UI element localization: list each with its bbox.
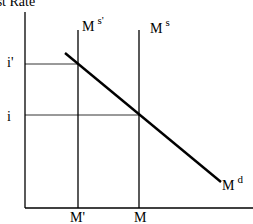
money-supply-new-label: Ms' — [82, 20, 104, 34]
money-supply-label: Ms — [150, 22, 170, 36]
money-supply-sup: s — [165, 16, 169, 28]
money-demand-base: M — [222, 178, 234, 193]
money-supply-base: M — [150, 21, 162, 36]
money-demand-line — [65, 53, 221, 182]
money-demand-sup: d — [237, 173, 243, 185]
x-tick-m: M — [134, 211, 146, 224]
y-tick-i: i — [7, 110, 11, 124]
money-demand-label: Md — [222, 179, 243, 193]
y-tick-i-prime: i' — [7, 56, 13, 70]
money-supply-new-base: M — [82, 19, 94, 34]
money-market-diagram — [0, 0, 253, 224]
y-axis-title: Interest Rate — [0, 0, 35, 9]
x-tick-m-prime: M' — [70, 211, 85, 224]
money-supply-new-sup: s' — [97, 14, 103, 26]
